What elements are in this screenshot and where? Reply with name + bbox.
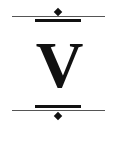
top-thin-rule <box>12 16 105 17</box>
top-diamond-icon <box>54 8 62 16</box>
bottom-diamond-icon <box>54 112 62 120</box>
top-thick-rule <box>35 19 81 22</box>
bottom-thick-rule <box>35 105 81 108</box>
roman-numeral-letter: V <box>0 32 119 98</box>
bottom-thin-rule <box>12 110 105 111</box>
